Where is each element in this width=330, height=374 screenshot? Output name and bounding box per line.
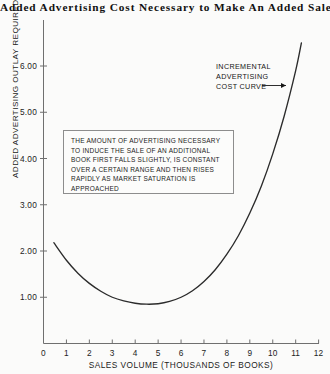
x-axis-tick-label: 1 (64, 348, 69, 358)
chart-figure: Added Advertising Cost Necessary to Make… (0, 0, 330, 374)
y-axis-tick-label: 1.00 (3, 292, 37, 302)
explanatory-note-box: THE AMOUNT OF ADVERTISING NECESSARY TO I… (63, 130, 234, 194)
x-axis-tick-label: 8 (224, 348, 229, 358)
y-axis-tick-label: 4.00 (3, 154, 37, 164)
x-axis-tick-label: 6 (179, 348, 184, 358)
y-axis (40, 20, 47, 344)
y-axis-tick-label: 6.00 (3, 61, 37, 71)
x-axis-tick-label: 11 (291, 348, 300, 358)
y-axis-tick-label: 3.00 (3, 200, 37, 210)
x-axis-tick-marks (66, 340, 318, 344)
y-axis-title: ADDED ADVERTISING OUTLAY REQUIRED (DOLLA… (11, 0, 20, 178)
x-axis-title: SALES VOLUME (THOUSANDS OF BOOKS) (43, 360, 319, 370)
x-axis-tick-label: 7 (202, 348, 207, 358)
explanatory-note-text: THE AMOUNT OF ADVERTISING NECESSARY TO I… (71, 136, 227, 194)
x-axis-tick-label: 4 (133, 348, 138, 358)
x-axis (44, 340, 320, 344)
y-axis-tick-label: 2.00 (3, 246, 37, 256)
x-axis-tick-label: 0 (41, 348, 46, 358)
x-axis-tick-label: 9 (247, 348, 252, 358)
x-axis-tick-label: 12 (314, 348, 324, 358)
x-axis-tick-label: 3 (110, 348, 115, 358)
x-axis-tick-label: 2 (87, 348, 92, 358)
y-axis-tick-label: 5.00 (3, 107, 37, 117)
curve-label-line-1: INCREMENTAL (216, 62, 271, 72)
curve-label-line-3: COST CURVE (216, 82, 271, 92)
curve-label-line-2: ADVERTISING (216, 72, 271, 82)
x-axis-tick-label: 5 (156, 348, 161, 358)
curve-series-label: INCREMENTAL ADVERTISING COST CURVE (216, 62, 271, 93)
x-axis-tick-label: 10 (268, 348, 278, 358)
